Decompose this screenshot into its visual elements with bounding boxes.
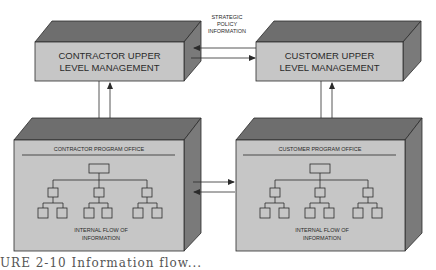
- contractor-upper-management-box: CONTRACTOR UPPER LEVEL MANAGEMENT: [35, 21, 201, 81]
- contractor-program-office-box: CONTRACTOR PROGRAM OFFICE: [14, 118, 201, 251]
- contractor-flow-label-2: INFORMATION: [82, 235, 120, 241]
- contractor-upper-label-2: LEVEL MANAGEMENT: [60, 62, 160, 73]
- contractor-upper-label-1: CONTRACTOR UPPER: [58, 50, 160, 61]
- figure-caption-partial: URE 2-10 Information flow...: [0, 256, 202, 270]
- contractor-flow-label-1: INTERNAL FLOW OF: [74, 227, 128, 233]
- customer-upper-label-2: LEVEL MANAGEMENT: [280, 62, 380, 73]
- edge-label-line-3: INFORMATION: [208, 28, 246, 34]
- customer-flow-label-1: INTERNAL FLOW OF: [295, 227, 349, 233]
- strategic-policy-label: STRATEGIC POLICY INFORMATION: [208, 14, 246, 34]
- customer-upper-label-1: CUSTOMER UPPER: [285, 50, 375, 61]
- customer-flow-label-2: INFORMATION: [303, 235, 341, 241]
- customer-office-title: CUSTOMER PROGRAM OFFICE: [278, 146, 361, 152]
- edge-label-line-2: POLICY: [217, 21, 238, 27]
- contractor-office-title: CONTRACTOR PROGRAM OFFICE: [54, 146, 145, 152]
- customer-program-office-box: CUSTOMER PROGRAM OFFICE: [236, 118, 422, 251]
- edge-label-line-1: STRATEGIC: [211, 14, 242, 20]
- customer-upper-management-box: CUSTOMER UPPER LEVEL MANAGEMENT: [256, 21, 421, 81]
